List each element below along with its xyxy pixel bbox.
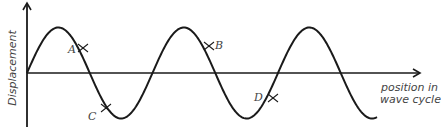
point-b-label: B: [214, 39, 223, 52]
wave-diagram: A B C D Displacement position in wave cy…: [0, 0, 441, 131]
x-axis-label-line2: wave cycle: [380, 93, 441, 106]
point-b-marker: [204, 42, 214, 50]
point-c-label: C: [88, 110, 97, 123]
point-a-label: A: [67, 43, 76, 56]
point-d-marker: [268, 94, 278, 102]
y-axis-label: Displacement: [6, 30, 19, 106]
point-a-marker: [78, 44, 88, 52]
point-d-label: D: [253, 91, 263, 104]
